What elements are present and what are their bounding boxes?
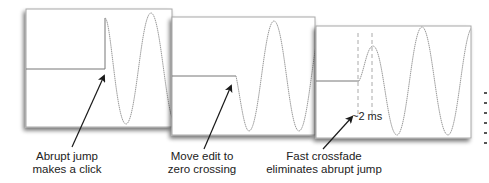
caption-line: eliminates abrupt jump <box>264 163 384 176</box>
panel-abrupt-jump <box>26 9 176 127</box>
caption-line: Abrupt jump <box>27 150 107 163</box>
cropped-page-edge <box>484 92 487 172</box>
caption-line: makes a click <box>27 163 107 176</box>
caption-abrupt-jump: Abrupt jump makes a click <box>27 150 107 176</box>
crossfade-duration-label: ~2 ms <box>352 110 382 122</box>
panel-zero-crossing <box>172 17 324 135</box>
panel-crossfade <box>316 26 473 138</box>
caption-line: Move edit to <box>162 150 242 163</box>
caption-crossfade: Fast crossfade eliminates abrupt jump <box>264 150 384 176</box>
caption-line: Fast crossfade <box>264 150 384 163</box>
caption-line: zero crossing <box>162 163 242 176</box>
caption-zero-crossing: Move edit to zero crossing <box>162 150 242 176</box>
